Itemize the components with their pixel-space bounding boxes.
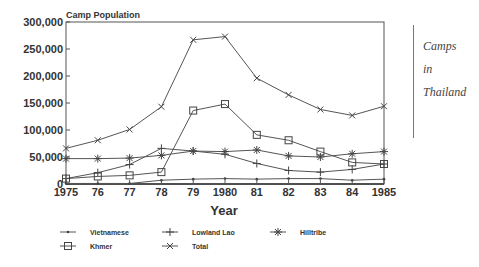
y-tick-label: 150,000: [23, 97, 63, 109]
x-tick-label: 1980: [213, 186, 237, 198]
x-tick-label: 1985: [372, 186, 396, 198]
x-tick-label: 77: [123, 186, 135, 198]
legend-item: Total: [162, 243, 208, 250]
legend-label: Total: [192, 243, 208, 250]
y-tick-label: 50,000: [29, 151, 63, 163]
series-hilltribe: [62, 146, 388, 163]
y-tick-label: 250,000: [23, 43, 63, 55]
side-note-line-2: in: [423, 58, 466, 81]
y-tick-label: 200,000: [23, 70, 63, 82]
x-tick-label: 79: [187, 186, 199, 198]
x-axis-label: Year: [210, 203, 237, 218]
y-axis: 050,000100,000150,000200,000250,000300,0…: [23, 16, 70, 190]
legend-label: Khmer: [90, 243, 112, 250]
side-note: Camps in Thailand: [413, 25, 466, 138]
x-axis: 1975767778791980818283841985: [54, 180, 396, 198]
line-chart: Camp Population 050,000100,000150,000200…: [0, 0, 479, 267]
legend: VietnameseLowland LaoHilltribeKhmerTotal: [60, 228, 326, 250]
plot-frame: [66, 22, 384, 184]
x-tick-label: 82: [282, 186, 294, 198]
x-tick-label: 76: [92, 186, 104, 198]
y-tick-label: 100,000: [23, 124, 63, 136]
legend-item: Khmer: [60, 243, 112, 251]
chart-title: Camp Population: [66, 10, 140, 20]
side-note-line-1: Camps: [423, 35, 466, 58]
legend-item: Vietnamese: [60, 229, 129, 236]
side-note-line-3: Thailand: [423, 81, 466, 104]
x-tick-label: 83: [314, 186, 326, 198]
y-tick-label: 300,000: [23, 16, 63, 28]
legend-label: Hilltribe: [300, 229, 326, 236]
series-total: [63, 34, 387, 152]
legend-item: Lowland Lao: [162, 228, 235, 236]
x-tick-label: 81: [251, 186, 263, 198]
legend-label: Lowland Lao: [192, 229, 235, 236]
legend-label: Vietnamese: [90, 229, 129, 236]
series-group: [62, 34, 388, 185]
x-tick-label: 1975: [54, 186, 78, 198]
x-tick-label: 84: [346, 186, 359, 198]
legend-item: Hilltribe: [270, 228, 326, 236]
x-tick-label: 78: [155, 186, 167, 198]
